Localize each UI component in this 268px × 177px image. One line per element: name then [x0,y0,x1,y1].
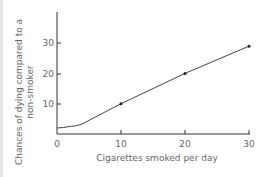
x-ticks: 0 10 20 30 [54,130,255,149]
y-tick-label: 10 [43,99,55,109]
y-axis-title-line-2: non-smoker [25,65,35,119]
x-axis-title: Cigarettes smoked per day [96,153,218,163]
x-tick-label: 10 [115,139,127,149]
data-point-marker [248,45,251,48]
x-tick-label: 0 [54,139,60,149]
data-point-marker [120,102,123,105]
y-tick-label: 20 [43,69,55,79]
chart: 10 20 30 0 10 20 30 Cigarettes smoked pe… [0,0,268,177]
x-tick-label: 20 [179,139,191,149]
series-line [57,46,249,128]
y-tick-label: 30 [43,38,55,48]
y-ticks: 10 20 30 [43,38,61,109]
y-axis-title-line-1: Chances of dying compared to a [14,19,24,165]
data-point-marker [184,72,187,75]
plot-area [57,45,251,128]
x-tick-label: 30 [243,139,255,149]
